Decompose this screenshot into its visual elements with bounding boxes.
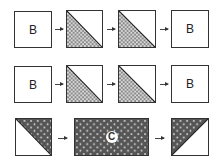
row2-box-b-start: B	[14, 66, 52, 103]
box-label: B	[172, 77, 208, 91]
arrow-icon	[55, 29, 63, 30]
box-label: B	[172, 22, 208, 36]
row3-rect-dotted-c: C	[74, 118, 149, 156]
arrow-icon	[55, 84, 63, 85]
arrow-icon	[58, 138, 67, 139]
arrow-icon	[160, 84, 168, 85]
row2-box-b-end: B	[171, 65, 209, 103]
arrow-icon	[160, 29, 168, 30]
row1-box-b-end: B	[171, 10, 209, 48]
row1-box-b-start: B	[14, 11, 52, 48]
row1-box-hatched-1	[66, 10, 103, 48]
row2-box-hatched-1	[66, 65, 103, 103]
box-label: B	[15, 23, 51, 37]
box-label: B	[15, 78, 51, 92]
arrow-icon	[155, 138, 164, 139]
row3-box-half-dotted-left	[171, 118, 209, 156]
arrow-icon	[107, 84, 115, 85]
row2-box-hatched-2	[118, 65, 156, 103]
arrow-icon	[107, 29, 115, 30]
row1-box-hatched-2	[118, 10, 156, 48]
circle-label: C	[106, 131, 118, 143]
row3-box-half-dotted-right	[15, 118, 52, 156]
